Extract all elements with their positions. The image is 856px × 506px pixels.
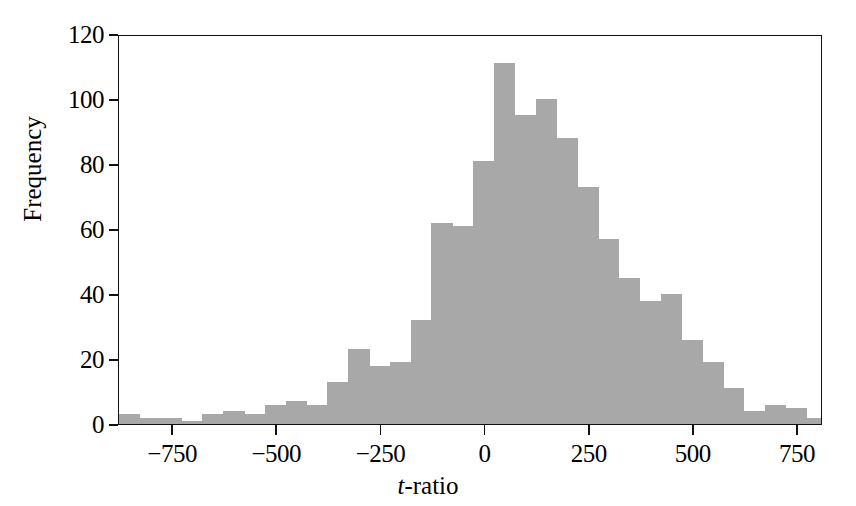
histogram-bar [140, 418, 161, 425]
histogram-figure: 020406080100120 Frequency t-ratio −750−5… [0, 0, 856, 506]
x-axis-tick [692, 425, 694, 435]
y-axis-tick-label: 40 [58, 282, 104, 307]
y-axis-tick [109, 34, 118, 36]
histogram-bar [411, 320, 432, 424]
x-axis-tick [796, 425, 798, 435]
histogram-bar [369, 366, 390, 425]
x-axis-tick-label: 500 [633, 440, 753, 468]
x-axis-tick-label: −750 [112, 440, 232, 468]
histogram-bar [598, 239, 619, 424]
histogram-bar [431, 223, 452, 425]
y-axis-title: Frequency [19, 54, 47, 284]
x-axis-tick-label: 750 [737, 440, 856, 468]
histogram-bar [661, 294, 682, 424]
histogram-bar [806, 418, 821, 425]
x-axis-tick [275, 425, 277, 435]
x-axis-tick [171, 425, 173, 435]
y-axis-tick [109, 99, 118, 101]
y-axis-tick [109, 294, 118, 296]
x-axis-title: t-ratio [0, 472, 856, 500]
histogram-bar [473, 161, 494, 424]
x-axis-tick-label: 0 [425, 440, 545, 468]
x-axis-tick [380, 425, 382, 435]
y-axis-tick [109, 164, 118, 166]
histogram-bar [161, 418, 182, 425]
histogram-bar [577, 187, 598, 424]
histogram-bar [265, 405, 286, 425]
y-axis-tick-labels: 020406080100120 [48, 0, 104, 506]
histogram-bar [119, 414, 140, 424]
histogram-bar [202, 414, 223, 424]
histogram-bar [494, 63, 515, 424]
y-axis-tick-label: 0 [58, 412, 104, 437]
histogram-bar [348, 349, 369, 424]
histogram-bar [786, 408, 807, 424]
histogram-bar [536, 99, 557, 424]
y-axis-tick-label: 20 [58, 347, 104, 372]
x-axis-tick [484, 425, 486, 435]
histogram-bar [702, 362, 723, 424]
y-axis-tick-label: 60 [58, 217, 104, 242]
x-axis-tick-label: −500 [216, 440, 336, 468]
histogram-bar [681, 340, 702, 425]
y-axis-tick-label: 80 [58, 152, 104, 177]
histogram-bar [619, 278, 640, 424]
y-axis-tick [109, 359, 118, 361]
plot-frame [118, 35, 822, 425]
y-axis-tick [109, 229, 118, 231]
histogram-bar [306, 405, 327, 425]
plot-area [119, 36, 821, 424]
histogram-bar [181, 421, 202, 424]
y-axis-tick-label: 120 [58, 22, 104, 47]
histogram-bar [765, 405, 786, 425]
histogram-bar [744, 411, 765, 424]
x-axis-tick [588, 425, 590, 435]
x-axis-tick-label: −250 [320, 440, 440, 468]
histogram-bar [390, 362, 411, 424]
histogram-bar [327, 382, 348, 424]
histogram-bar [556, 138, 577, 424]
x-axis-title-rest: -ratio [404, 472, 458, 499]
y-axis-tick [109, 424, 118, 426]
histogram-bar [223, 411, 244, 424]
x-axis-tick-label: 250 [529, 440, 649, 468]
histogram-bar [723, 388, 744, 424]
histogram-bar [515, 115, 536, 424]
histogram-bar [640, 301, 661, 425]
histogram-bar [244, 414, 265, 424]
y-axis-tick-label: 100 [58, 87, 104, 112]
histogram-bar [286, 401, 307, 424]
histogram-bar [452, 226, 473, 424]
